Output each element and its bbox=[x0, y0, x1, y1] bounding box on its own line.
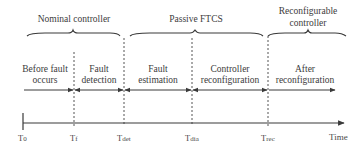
stage-fault-detection-line1: Fault bbox=[76, 64, 122, 75]
phase-label-passive-ftcs: Passive FTCS bbox=[160, 14, 232, 25]
brace-passive-ftcs bbox=[130, 30, 263, 36]
stage-fault-estimation-line1: Fault bbox=[126, 64, 190, 75]
stage-after-reconfiguration-line2: reconfiguration bbox=[270, 75, 340, 86]
tick-label-trec: Trec bbox=[261, 133, 275, 144]
stage-before-fault-line1: Before fault bbox=[18, 64, 72, 75]
axis-label-time: Time bbox=[329, 132, 348, 142]
phase-label-reconfigurable-line1: Reconfigurable bbox=[272, 6, 344, 17]
phase-label-reconfigurable-line2: controller bbox=[272, 18, 344, 29]
brace-reconfigurable-controller bbox=[268, 30, 346, 36]
tick-label-tf: Tf bbox=[70, 133, 78, 144]
stage-fault-estimation-line2: estimation bbox=[126, 75, 190, 86]
tick-label-t0: T0 bbox=[18, 133, 27, 144]
stage-fault-detection-line2: detection bbox=[76, 75, 122, 86]
tick-label-tdia: Tdia bbox=[185, 133, 199, 144]
tick-label-tdet: Tdet bbox=[117, 133, 131, 144]
ftc-timeline-diagram: Nominal controller Passive FTCS Reconfig… bbox=[0, 0, 362, 151]
stage-before-fault-line2: occurs bbox=[18, 75, 72, 86]
stage-after-reconfiguration-line1: After bbox=[270, 64, 340, 75]
brace-nominal-controller bbox=[27, 30, 120, 36]
phase-label-nominal-controller: Nominal controller bbox=[32, 14, 116, 25]
stage-controller-reconfiguration-line2: reconfiguration bbox=[194, 75, 266, 86]
stage-controller-reconfiguration-line1: Controller bbox=[194, 64, 266, 75]
